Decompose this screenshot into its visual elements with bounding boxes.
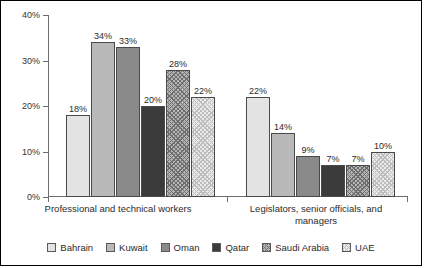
category-label-legislators-line1: Legislators, senior officials, and [221, 203, 411, 215]
category-label-professional-line1: Professional and technical workers [23, 203, 213, 215]
bar-value-label: 34% [94, 31, 112, 41]
chart-figure: 40% 30% 20% 10% 0% 18%34%33%20%28%22% 22… [0, 0, 422, 266]
legend-label: Qatar [225, 242, 249, 253]
legend-item-qatar[interactable]: Qatar [212, 242, 249, 253]
bar-bahrain-0: 18% [66, 115, 90, 197]
bar-value-label: 22% [194, 86, 212, 96]
plot-area: 40% 30% 20% 10% 0% 18%34%33%20%28%22% 22… [48, 15, 408, 197]
y-tick-label-0: 0% [27, 192, 40, 202]
bar-oman-0: 33% [116, 47, 140, 197]
y-tick-label-40: 40% [22, 10, 40, 20]
legend-item-kuwait[interactable]: Kuwait [106, 242, 148, 253]
legend-swatch-icon [161, 243, 170, 252]
y-tick-20 [43, 106, 48, 107]
legend-label: Bahrain [60, 242, 93, 253]
bar-oman-1: 9% [296, 156, 320, 197]
legend-swatch-icon [262, 243, 271, 252]
x-tick-end [407, 197, 408, 202]
bar-value-label: 33% [119, 36, 137, 46]
bar-kuwait-1: 14% [271, 133, 295, 197]
bar-qatar-0: 20% [141, 106, 165, 197]
bar-saudi-arabia-1: 7% [346, 165, 370, 197]
bar-group-legislators: 22%14%9%7%7%10% [246, 15, 396, 197]
legend-item-bahrain[interactable]: Bahrain [47, 242, 93, 253]
y-axis-line [48, 15, 49, 197]
legend-label: Oman [174, 242, 200, 253]
bar-value-label: 10% [374, 141, 392, 151]
bar-value-label: 9% [301, 145, 314, 155]
legend-item-uae[interactable]: UAE [342, 242, 375, 253]
category-label-professional: Professional and technical workers [23, 203, 213, 215]
bar-value-label: 28% [169, 59, 187, 69]
bar-qatar-1: 7% [321, 165, 345, 197]
bar-value-label: 7% [326, 154, 339, 164]
bar-value-label: 22% [249, 86, 267, 96]
bar-bahrain-1: 22% [246, 97, 270, 197]
bar-uae-0: 22% [191, 97, 215, 197]
y-tick-10 [43, 152, 48, 153]
bar-value-label: 18% [69, 104, 87, 114]
bar-value-label: 20% [144, 95, 162, 105]
legend-label: Saudi Arabia [275, 242, 329, 253]
y-tick-label-20: 20% [22, 101, 40, 111]
legend-item-oman[interactable]: Oman [161, 242, 200, 253]
bar-uae-1: 10% [371, 152, 395, 198]
legend-swatch-icon [47, 243, 56, 252]
legend-swatch-icon [106, 243, 115, 252]
legend-item-saudi-arabia[interactable]: Saudi Arabia [262, 242, 329, 253]
legend-swatch-icon [212, 243, 221, 252]
bar-saudi-arabia-0: 28% [166, 70, 190, 197]
chart-legend: BahrainKuwaitOmanQatarSaudi ArabiaUAE [1, 242, 421, 253]
bar-kuwait-0: 34% [91, 42, 115, 197]
legend-swatch-icon [342, 243, 351, 252]
x-tick-start [48, 197, 49, 202]
bar-group-professional: 18%34%33%20%28%22% [66, 15, 216, 197]
y-tick-label-10: 10% [22, 147, 40, 157]
y-tick-40 [43, 15, 48, 16]
x-tick-mid [227, 197, 228, 202]
bar-value-label: 14% [274, 122, 292, 132]
y-tick-30 [43, 61, 48, 62]
legend-label: Kuwait [119, 242, 148, 253]
category-label-legislators: Legislators, senior officials, and manag… [221, 203, 411, 227]
bar-value-label: 7% [351, 154, 364, 164]
legend-label: UAE [355, 242, 375, 253]
y-tick-label-30: 30% [22, 56, 40, 66]
category-label-legislators-line2: managers [221, 215, 411, 227]
